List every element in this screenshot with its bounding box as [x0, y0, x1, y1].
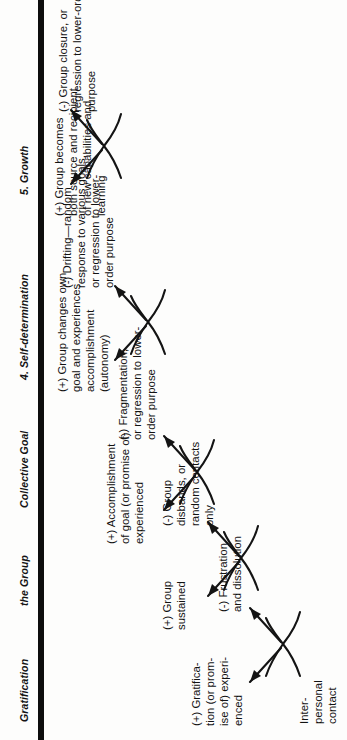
- node-fragmentation-negative: (-) Fragmentation, or regression to lowe…: [116, 290, 158, 440]
- node-frustration-negative: (-) Frustration and dissolution: [216, 494, 244, 612]
- figure-canvas: Gratification the Group Collective Goal …: [0, 0, 347, 740]
- arrow-stage1-negative: [250, 608, 281, 642]
- node-group-sustained-positive: (+) Group sustained: [160, 530, 188, 630]
- fork-glyph-stage1: [266, 612, 300, 676]
- node-interpersonal-contact: Inter- personal contact: [297, 614, 339, 724]
- node-gratification-positive: (+) Gratifica- tion (or prom- ise of) ex…: [189, 614, 245, 726]
- rotated-figure-canvas: Gratification the Group Collective Goal …: [0, 0, 347, 740]
- node-group-closure-negative: (-) Group closure, or regression to lowe…: [56, 0, 98, 112]
- node-group-disbands-negative: (-) Group disbands, or random contacts o…: [160, 404, 216, 526]
